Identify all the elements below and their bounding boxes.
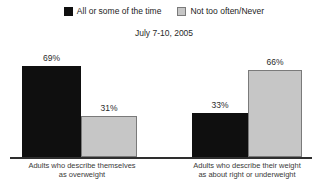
legend-label-not-too-often-never: Not too often/Never — [190, 6, 264, 16]
legend-item-not-too-often-never: Not too often/Never — [177, 6, 264, 16]
legend-label-all-or-some-of-the-time: All or some of the time — [77, 6, 162, 16]
legend-swatch-gray-icon — [177, 7, 186, 16]
x-axis-line — [10, 157, 312, 159]
legend: All or some of the time Not too often/Ne… — [0, 6, 328, 16]
bar-value-label-overweight-all-or-some: 69% — [22, 53, 81, 63]
bar-about-right-not-too-often — [248, 70, 302, 157]
bar-value-label-about-right-all-or-some: 33% — [192, 100, 248, 110]
chart-date-subtitle: July 7-10, 2005 — [0, 28, 328, 38]
legend-swatch-black-icon — [64, 7, 73, 16]
bar-value-label-about-right-not-too-often: 66% — [248, 57, 302, 67]
bar-about-right-all-or-some — [192, 113, 248, 157]
legend-item-all-or-some-of-the-time: All or some of the time — [64, 6, 162, 16]
bar-chart-canvas: All or some of the time Not too often/Ne… — [0, 0, 328, 187]
category-label-overweight: Adults who describe themselves as overwe… — [0, 162, 164, 179]
bar-value-label-overweight-not-too-often: 31% — [81, 103, 137, 113]
category-label-overweight-line2: as overweight — [0, 171, 164, 180]
bar-overweight-all-or-some — [22, 66, 81, 157]
category-label-about-right-or-underweight: Adults who describe their weight as abou… — [166, 162, 328, 179]
bar-overweight-not-too-often — [81, 116, 137, 157]
category-label-about-right-line2: as about right or underweight — [166, 171, 328, 180]
